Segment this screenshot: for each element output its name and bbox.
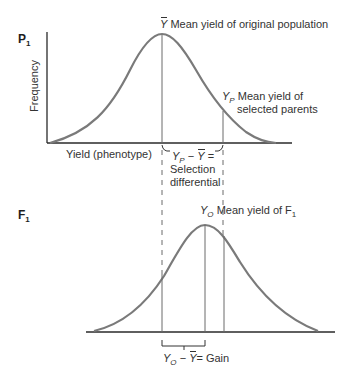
p1-distribution-curve — [50, 34, 276, 143]
p1-mean-annotation: Y Mean yield of original population — [160, 18, 328, 30]
yp-symbol: YP — [222, 90, 235, 102]
y-bar-symbol: Y — [160, 18, 167, 30]
f1-distribution-curve — [94, 225, 318, 331]
p1-gen-sub: 1 — [26, 39, 30, 48]
selection-response-diagram — [0, 0, 351, 384]
gain-bracket — [162, 340, 205, 350]
f1-gen-sub: 1 — [25, 215, 29, 224]
f1-generation-label: F1 — [18, 208, 30, 224]
p1-x-axis-label: Yield (phenotype) — [66, 148, 152, 160]
gain-equation: YO − Y= Gain — [163, 352, 229, 369]
f1-offspring-annotation: YO Mean yield of F1 — [200, 204, 296, 221]
p1-gen-text: P — [18, 32, 26, 46]
p1-mean-label: Mean yield of original population — [170, 18, 328, 30]
p1-selected-label-line1: Mean yield of — [238, 90, 303, 102]
p1-generation-label: P1 — [18, 32, 30, 48]
selection-differential-line2: differential — [170, 176, 221, 188]
f1-offspring-label: Mean yield of F1 — [217, 204, 297, 216]
yo-symbol: YO — [200, 204, 214, 216]
p1-selected-label-line2: selected parents — [237, 103, 318, 115]
p1-y-axis-label: Frequency — [28, 60, 40, 112]
p1-axes — [47, 32, 292, 143]
selection-differential-line1: Selection — [170, 163, 215, 175]
